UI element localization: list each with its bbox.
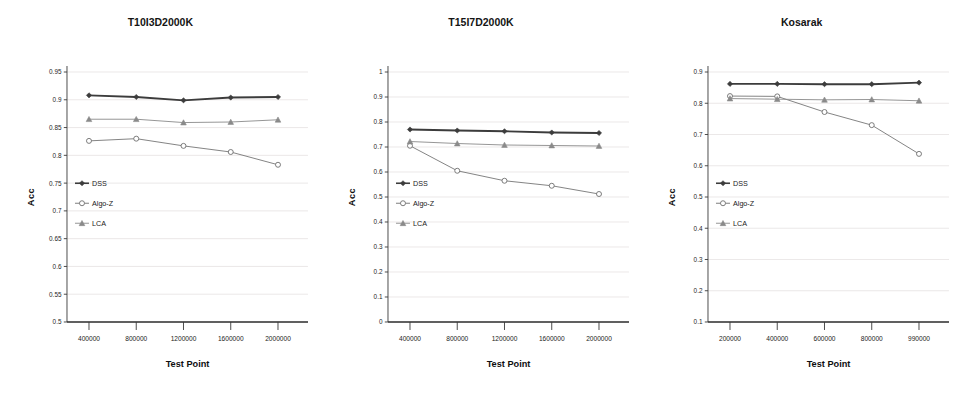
x-axis-tick-label: 990000	[908, 335, 930, 342]
chart-panel-2: Kosarak 0.10.20.30.40.50.60.70.80.920000…	[641, 0, 962, 393]
legend-label: Algo-Z	[92, 199, 114, 208]
open-circle-marker	[822, 110, 827, 115]
y-axis-tick-label: 0.9	[373, 93, 382, 100]
filled-diamond-marker	[134, 94, 139, 99]
y-axis-tick-label: 0.95	[49, 68, 62, 75]
x-axis-tick-label: 2000000	[586, 335, 612, 342]
filled-diamond-marker	[400, 181, 405, 186]
filled-diamond-marker	[228, 95, 233, 100]
y-axis-tick-label: 0.6	[373, 168, 382, 175]
y-axis-tick-label: 0.75	[49, 180, 62, 187]
data-series-lca	[86, 116, 281, 125]
y-axis-tick-label: 0.4	[373, 218, 382, 225]
data-series-lca	[728, 96, 923, 103]
series-line	[89, 139, 278, 165]
chart-legend: DSSAlgo-ZLCA	[396, 179, 435, 228]
open-circle-marker	[596, 192, 601, 197]
open-circle-marker	[870, 123, 875, 128]
filled-diamond-marker	[79, 181, 84, 186]
legend-label: Algo-Z	[733, 199, 755, 208]
filled-diamond-marker	[775, 81, 780, 86]
x-axis-tick-label: 200000	[719, 335, 741, 342]
filled-diamond-marker	[181, 98, 186, 103]
open-circle-marker	[275, 162, 280, 167]
y-axis-tick-label: 0.7	[373, 143, 382, 150]
y-axis-tick-label: 1	[379, 68, 383, 75]
open-circle-marker	[400, 201, 405, 206]
y-axis-tick-label: 0.6	[694, 162, 703, 169]
y-axis-tick-label: 0.7	[694, 131, 703, 138]
x-axis-tick-label: 800000	[861, 335, 883, 342]
y-axis-tick-label: 0.8	[694, 100, 703, 107]
open-circle-marker	[549, 183, 554, 188]
legend-label: DSS	[413, 179, 428, 188]
filled-diamond-marker	[549, 130, 554, 135]
chart-legend: DSSAlgo-ZLCA	[75, 179, 114, 228]
legend-label: Algo-Z	[413, 199, 435, 208]
x-axis-title: Test Point	[807, 359, 851, 369]
plot-area-2: 0.10.20.30.40.50.60.70.80.92000004000006…	[641, 0, 962, 393]
x-axis-tick-label: 1600000	[218, 335, 244, 342]
series-line	[410, 146, 599, 194]
y-axis-tick-label: 0.85	[49, 124, 62, 131]
y-axis-tick-label: 0.3	[694, 256, 703, 263]
chart-panel-0: T10I3D2000K 0.50.550.60.650.70.750.80.85…	[0, 0, 321, 393]
y-axis-title: Acc	[667, 188, 677, 207]
legend-label: LCA	[733, 219, 747, 228]
y-axis-tick-label: 0.2	[694, 287, 703, 294]
y-axis-tick-label: 0.6	[53, 263, 62, 270]
y-axis-tick-label: 0.9	[53, 96, 62, 103]
y-axis-tick-label: 0.1	[373, 293, 382, 300]
legend-label: LCA	[92, 219, 106, 228]
x-axis-tick-label: 1600000	[539, 335, 565, 342]
filled-diamond-marker	[822, 82, 827, 87]
filled-diamond-marker	[407, 127, 412, 132]
y-axis-tick-label: 0.7	[53, 207, 62, 214]
y-axis-tick-label: 0.8	[53, 152, 62, 159]
y-axis-tick-label: 0.4	[694, 225, 703, 232]
chart-panel-1: T15I7D2000K 00.10.20.30.40.50.60.70.80.9…	[321, 0, 642, 393]
y-axis-title: Acc	[26, 188, 36, 207]
open-circle-marker	[79, 201, 84, 206]
x-axis-title: Test Point	[166, 359, 210, 369]
y-axis-tick-label: 0.5	[694, 193, 703, 200]
open-circle-marker	[454, 168, 459, 173]
filled-diamond-marker	[86, 93, 91, 98]
y-axis-tick-label: 0.8	[373, 118, 382, 125]
filled-diamond-marker	[917, 80, 922, 85]
filled-diamond-marker	[728, 81, 733, 86]
x-axis-tick-label: 800000	[125, 335, 147, 342]
open-circle-marker	[86, 138, 91, 143]
y-axis-tick-label: 0.5	[53, 318, 62, 325]
y-axis-tick-label: 0.65	[49, 235, 62, 242]
open-circle-marker	[228, 150, 233, 155]
legend-label: DSS	[92, 179, 107, 188]
y-axis-tick-label: 0.55	[49, 291, 62, 298]
chart-legend: DSSAlgo-ZLCA	[716, 179, 755, 228]
filled-diamond-marker	[275, 94, 280, 99]
y-axis-tick-label: 0.1	[694, 318, 703, 325]
filled-diamond-marker	[454, 128, 459, 133]
x-axis-title: Test Point	[486, 359, 530, 369]
multi-panel-line-chart-figure: T10I3D2000K 0.50.550.60.650.70.750.80.85…	[0, 0, 962, 393]
legend-label: DSS	[733, 179, 748, 188]
x-axis-tick-label: 1200000	[491, 335, 517, 342]
open-circle-marker	[134, 136, 139, 141]
x-axis-tick-label: 400000	[767, 335, 789, 342]
data-series-dss	[86, 93, 280, 103]
filled-diamond-marker	[502, 129, 507, 134]
legend-label: LCA	[413, 219, 427, 228]
y-axis-tick-label: 0.5	[373, 193, 382, 200]
open-circle-marker	[917, 151, 922, 156]
open-circle-marker	[502, 178, 507, 183]
data-series-dss	[728, 80, 922, 87]
y-axis-tick-label: 0.2	[373, 268, 382, 275]
x-axis-tick-label: 1200000	[171, 335, 197, 342]
filled-diamond-marker	[596, 130, 601, 135]
x-axis-tick-label: 800000	[446, 335, 468, 342]
filled-diamond-marker	[721, 181, 726, 186]
data-series-algo-z	[86, 136, 280, 167]
y-axis-tick-label: 0	[379, 318, 383, 325]
open-circle-marker	[721, 201, 726, 206]
series-line	[730, 96, 919, 154]
